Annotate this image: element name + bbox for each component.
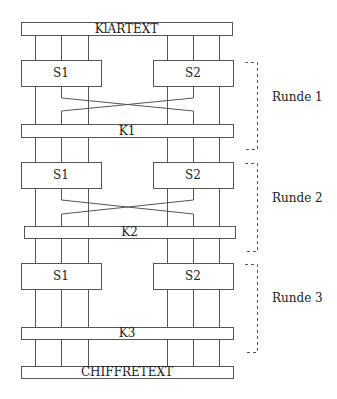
round-2-label: Runde 2	[272, 192, 323, 204]
round-3-label: Runde 3	[272, 292, 323, 304]
plaintext-label: KlARTEXT	[21, 23, 232, 35]
round-2-sbox-s1-label: S1	[21, 169, 101, 181]
round-bracket	[245, 265, 258, 353]
crossing-wire	[62, 188, 194, 226]
round-3-key-label: K3	[21, 327, 233, 339]
round-2-sbox-s2-label: S2	[153, 169, 233, 181]
round-bracket	[245, 164, 258, 252]
round-bracket	[245, 63, 258, 150]
ciphertext-label: CHIFFRETEXT	[21, 366, 233, 378]
round-1-key-label: K1	[21, 125, 233, 137]
round-1-label: Runde 1	[272, 91, 323, 103]
crossing-wire	[62, 86, 194, 124]
round-brackets	[245, 63, 258, 353]
round-1-sbox-s2-label: S2	[153, 67, 233, 79]
round-3-sbox-s1-label: S1	[21, 270, 101, 282]
round-1-sbox-s1-label: S1	[21, 67, 101, 79]
round-2-key-label: K2	[24, 226, 235, 238]
round-3-sbox-s2-label: S2	[153, 270, 233, 282]
